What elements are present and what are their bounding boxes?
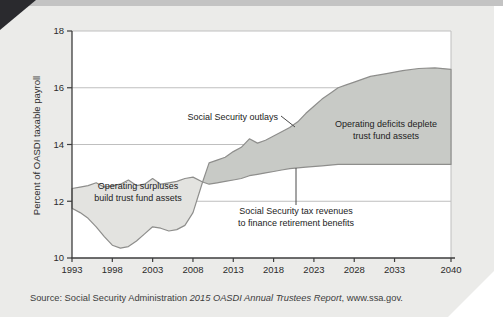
x-tick-label-2023: 2023	[303, 264, 324, 275]
outlays-series-label-text: Social Security outlays	[187, 112, 278, 122]
social-security-area-chart: 1012141618199319982003200820132018202320…	[0, 0, 503, 317]
y-tick-label-16: 16	[53, 82, 64, 93]
source-prefix: Source: Social Security Administration	[30, 293, 190, 303]
y-axis-title: Percent of OASDI taxable payroll	[31, 61, 44, 231]
y-tick-label-10: 10	[53, 252, 64, 263]
deficit-label-line2: trust fund assets	[353, 131, 419, 141]
deficit-region-label: Operating deficits deplete trust fund as…	[316, 119, 456, 142]
source-suffix: , www.ssa.gov.	[342, 293, 403, 303]
figure-page: 1012141618199319982003200820132018202320…	[0, 0, 503, 317]
surplus-region-label: Operating surpluses build trust fund ass…	[78, 181, 198, 204]
source-report-title: 2015 OASDI Annual Trustees Report	[190, 293, 342, 303]
revenues-label-line1: Social Security tax revenues	[239, 206, 353, 216]
x-tick-label-2003: 2003	[142, 264, 163, 275]
x-tick-label-2040: 2040	[440, 264, 461, 275]
y-tick-label-18: 18	[53, 25, 64, 36]
outlays-series-label: Social Security outlays	[163, 112, 278, 124]
x-tick-label-2013: 2013	[223, 264, 244, 275]
surplus-label-line2: build trust fund assets	[94, 193, 182, 203]
y-tick-label-14: 14	[53, 139, 64, 150]
revenues-series-label: Social Security tax revenues to finance …	[226, 206, 366, 229]
deficit-label-line1: Operating deficits deplete	[335, 119, 437, 129]
x-tick-label-2018: 2018	[263, 264, 284, 275]
surplus-label-line1: Operating surpluses	[98, 181, 179, 191]
x-tick-label-1993: 1993	[61, 264, 82, 275]
x-tick-label-2033: 2033	[384, 264, 405, 275]
source-note: Source: Social Security Administration 2…	[30, 293, 470, 303]
x-tick-label-2008: 2008	[182, 264, 203, 275]
x-tick-label-2028: 2028	[344, 264, 365, 275]
y-tick-label-12: 12	[53, 196, 64, 207]
x-tick-label-1998: 1998	[102, 264, 123, 275]
revenues-label-line2: to finance retirement benefits	[238, 218, 354, 228]
